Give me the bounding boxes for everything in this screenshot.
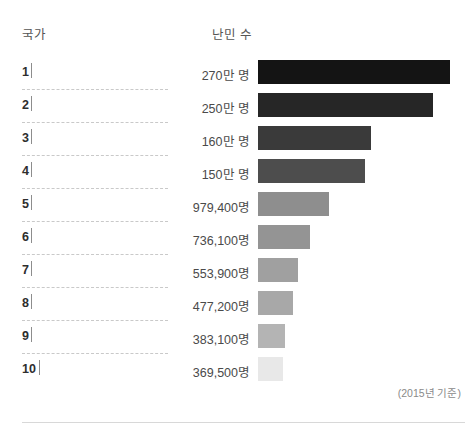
row-separator [22, 122, 168, 123]
bar [258, 192, 329, 216]
bar [258, 291, 293, 315]
table-row[interactable]: 7553,900명 [0, 254, 473, 287]
bar [258, 324, 285, 348]
bar [258, 93, 433, 117]
rank-number: 8 [22, 296, 29, 310]
value-label: 150만 명 [202, 164, 250, 183]
table-row[interactable]: 10369,500명 [0, 353, 473, 386]
value-label: 383,100명 [193, 329, 250, 348]
rank-separator-bar [31, 63, 32, 78]
bar [258, 126, 371, 150]
rank-separator-bar [31, 162, 32, 177]
row-separator [22, 89, 168, 90]
table-row[interactable]: 6736,100명 [0, 221, 473, 254]
rank-separator-bar [31, 129, 32, 144]
rank-separator-bar [31, 228, 32, 243]
column-header-country: 국가 [22, 24, 46, 43]
rank-separator-bar [31, 294, 32, 309]
value-label: 477,200명 [193, 296, 250, 315]
row-separator [22, 155, 168, 156]
table-row[interactable]: 5979,400명 [0, 188, 473, 221]
rank-separator-bar [31, 261, 32, 276]
bar [258, 60, 450, 84]
row-separator [22, 221, 168, 222]
rank-number: 5 [22, 197, 29, 211]
bar [258, 258, 298, 282]
value-label: 270만 명 [202, 65, 250, 84]
rank-number: 10 [22, 362, 36, 376]
rank-number: 6 [22, 230, 29, 244]
rank-number: 9 [22, 329, 29, 343]
row-separator [22, 188, 168, 189]
rank-number: 3 [22, 131, 29, 145]
value-label: 736,100명 [193, 230, 250, 249]
column-header-refugees: 난민 수 [212, 24, 252, 43]
value-label: 160만 명 [202, 131, 250, 150]
bar [258, 159, 365, 183]
rank-separator-bar [31, 96, 32, 111]
value-label: 979,400명 [193, 197, 250, 216]
value-label: 553,900명 [193, 263, 250, 282]
refugee-ranking-chart: 국가 난민 수 1270만 명2250만 명3160만 명4150만 명5979… [0, 0, 473, 434]
footnote: (2015년 기준) [398, 385, 461, 400]
value-label: 250만 명 [202, 98, 250, 117]
table-row[interactable]: 2250만 명 [0, 89, 473, 122]
rank-separator-bar [31, 195, 32, 210]
rank-separator-bar [39, 360, 40, 375]
row-separator [22, 353, 168, 354]
value-label: 369,500명 [193, 362, 250, 381]
table-row[interactable]: 3160만 명 [0, 122, 473, 155]
column-header-row: 국가 난민 수 [0, 24, 473, 44]
rank-number: 7 [22, 263, 29, 277]
row-separator [22, 287, 168, 288]
row-separator [22, 320, 168, 321]
bottom-divider [22, 422, 465, 423]
bar [258, 225, 310, 249]
rank-separator-bar [31, 327, 32, 342]
table-row[interactable]: 4150만 명 [0, 155, 473, 188]
row-separator [22, 254, 168, 255]
table-row[interactable]: 1270만 명 [0, 56, 473, 89]
rank-number: 2 [22, 98, 29, 112]
rank-number: 1 [22, 65, 29, 79]
chart-rows: 1270만 명2250만 명3160만 명4150만 명5979,400명673… [0, 56, 473, 386]
bar [258, 357, 283, 381]
rank-number: 4 [22, 164, 29, 178]
table-row[interactable]: 9383,100명 [0, 320, 473, 353]
table-row[interactable]: 8477,200명 [0, 287, 473, 320]
